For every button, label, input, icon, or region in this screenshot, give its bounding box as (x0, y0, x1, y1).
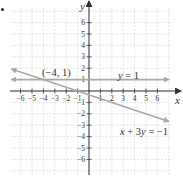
svg-text:5: 5 (81, 30, 85, 39)
svg-text:−3: −3 (51, 94, 59, 103)
axes (10, 1, 181, 175)
y-axis-label: y (79, 0, 85, 12)
svg-text:2: 2 (81, 64, 85, 73)
line-x-plus-3y-label: x + 3y = −1 (119, 126, 168, 137)
svg-text:4: 4 (133, 94, 137, 103)
svg-text:−3: −3 (77, 121, 85, 130)
coordinate-plane: −6−5−4−3−2−1123456−6−5−4−3−2−1123456 y x… (0, 0, 183, 179)
svg-text:3: 3 (81, 52, 85, 61)
svg-text:5: 5 (144, 94, 148, 103)
svg-text:6: 6 (81, 18, 85, 27)
line-y-equals-1-label: y = 1 (117, 70, 139, 81)
svg-text:−6: −6 (17, 94, 25, 103)
svg-text:4: 4 (81, 41, 85, 50)
svg-text:−5: −5 (28, 94, 36, 103)
chart-labels: y x (−4, 1) y = 1 x + 3y = −1 (42, 0, 180, 137)
svg-text:−6: −6 (77, 155, 85, 164)
x-axis-label: x (174, 94, 180, 106)
svg-text:−2: −2 (77, 109, 85, 118)
svg-text:−5: −5 (77, 144, 85, 153)
svg-text:−2: −2 (62, 94, 70, 103)
svg-text:6: 6 (156, 94, 160, 103)
svg-text:−4: −4 (39, 94, 47, 103)
intersection-point-label: (−4, 1) (42, 67, 71, 79)
svg-text:−4: −4 (77, 132, 85, 141)
svg-text:−1: −1 (77, 98, 85, 107)
svg-text:3: 3 (121, 94, 125, 103)
